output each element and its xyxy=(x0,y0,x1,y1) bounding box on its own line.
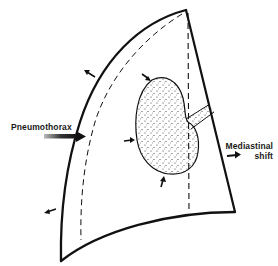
mediastinal-label-line2: shift xyxy=(223,151,273,161)
arrow-icon xyxy=(124,137,135,143)
arrow-icon xyxy=(44,209,56,214)
arrow-icon xyxy=(160,176,166,187)
midline-dashed xyxy=(188,13,189,213)
arrow-icon xyxy=(84,70,95,77)
arrow-icon xyxy=(142,74,151,81)
collapsed-lung xyxy=(136,78,199,174)
pneumothorax-diagram xyxy=(0,0,278,266)
expansion-arrows xyxy=(44,70,95,214)
pneumothorax-label: Pneumothorax xyxy=(11,122,72,132)
mediastinal-shift-label: Mediastinal shift xyxy=(223,141,273,161)
pneumothorax-arrow-icon xyxy=(44,131,86,142)
mediastinal-label-line1: Mediastinal xyxy=(223,141,273,151)
